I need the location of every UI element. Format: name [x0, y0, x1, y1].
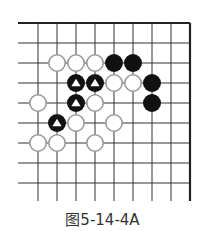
white-stone: [87, 135, 103, 151]
white-stone-body: [106, 75, 122, 91]
white-stone-body: [68, 115, 84, 131]
go-board: [0, 0, 205, 205]
black-stone-body: [124, 54, 142, 72]
white-stone: [49, 55, 65, 71]
white-stone: [87, 95, 103, 111]
black-stone-body: [143, 74, 161, 92]
white-stone-body: [49, 135, 65, 151]
white-stone: [30, 95, 46, 111]
white-stone-body: [87, 135, 103, 151]
white-stone-body: [68, 55, 84, 71]
white-stone-body: [49, 55, 65, 71]
figure-caption: 图5-14-4A: [0, 208, 205, 229]
black-stone: [48, 114, 66, 132]
black-stone: [67, 74, 85, 92]
black-stone: [67, 94, 85, 112]
white-stone: [68, 55, 84, 71]
black-stone-body: [105, 54, 123, 72]
white-stone: [68, 115, 84, 131]
white-stone: [87, 55, 103, 71]
white-stone: [49, 135, 65, 151]
black-stone: [143, 94, 161, 112]
white-stone-body: [87, 55, 103, 71]
board-grid: [18, 23, 190, 201]
black-stone: [105, 54, 123, 72]
black-stone: [86, 74, 104, 92]
white-stone-body: [125, 75, 141, 91]
white-stone-body: [106, 115, 122, 131]
black-stone: [143, 74, 161, 92]
white-stone-body: [30, 95, 46, 111]
white-stone-body: [87, 95, 103, 111]
white-stone: [125, 75, 141, 91]
black-stone: [124, 54, 142, 72]
white-stone: [106, 75, 122, 91]
white-stone: [30, 135, 46, 151]
white-stone: [106, 115, 122, 131]
black-stone-body: [143, 94, 161, 112]
white-stone-body: [30, 135, 46, 151]
